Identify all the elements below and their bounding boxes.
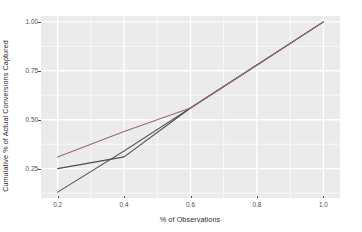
cumulative-gains-chart: Cumulative % of Actual Conversions Captu… [0, 0, 362, 232]
x-tick-label: 1.0 [311, 201, 335, 209]
plot-area [41, 16, 340, 198]
plot-panel [41, 16, 340, 198]
y-tick-label: 0.75 [16, 67, 38, 75]
x-tick-mark [124, 196, 125, 199]
x-tick-mark [191, 196, 192, 199]
y-tick-label: 1.00 [16, 18, 38, 26]
x-tick-mark [257, 196, 258, 199]
x-axis-title: % of Observations [40, 215, 340, 224]
x-tick-label: 0.8 [245, 201, 269, 209]
x-axis-ticks: 0.20.40.60.81.0 [0, 198, 362, 212]
x-tick-label: 0.6 [179, 201, 203, 209]
x-tick-label: 0.4 [112, 201, 136, 209]
x-tick-label: 0.2 [46, 201, 70, 209]
y-tick-label: 0.50 [16, 116, 38, 124]
x-tick-mark [58, 196, 59, 199]
x-tick-mark [323, 196, 324, 199]
y-tick-label: 0.25 [16, 165, 38, 173]
